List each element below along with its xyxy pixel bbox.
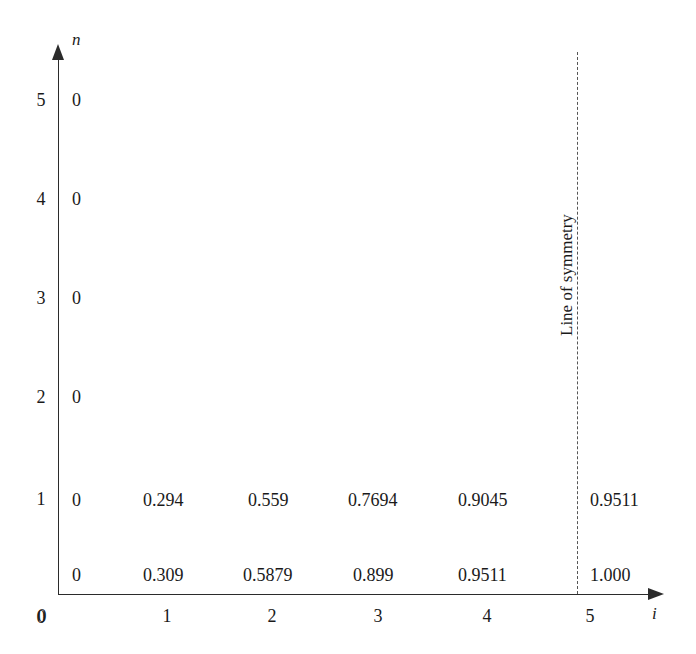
grid-value-c-n0-i1: 0.309 bbox=[143, 565, 184, 586]
y-tick-label-5: 5 bbox=[26, 90, 56, 111]
y-tick-label-4: 4 bbox=[26, 189, 56, 210]
grid-value-c-n5-i0: 0 bbox=[72, 90, 81, 111]
grid-value-c-n1-i2: 0.559 bbox=[248, 490, 289, 511]
x-axis-line bbox=[58, 594, 656, 595]
line-of-symmetry bbox=[577, 52, 578, 594]
x-tick-label-0: 0 bbox=[27, 606, 57, 627]
grid-value-c-n3-i0: 0 bbox=[72, 288, 81, 309]
grid-value-c-n1-i5: 0.9511 bbox=[590, 490, 639, 511]
grid-value-c-n0-i0: 0 bbox=[72, 565, 81, 586]
x-axis-label: i bbox=[652, 604, 657, 624]
y-axis-line bbox=[58, 57, 59, 595]
y-tick-label-2: 2 bbox=[26, 387, 56, 408]
x-tick-label-4: 4 bbox=[472, 606, 502, 627]
grid-value-c-n1-i0: 0 bbox=[72, 490, 81, 511]
grid-value-c-n1-i4: 0.9045 bbox=[458, 490, 508, 511]
y-tick-label-1: 1 bbox=[26, 489, 56, 510]
x-tick-label-2: 2 bbox=[257, 606, 287, 627]
grid-value-c-n0-i4: 0.9511 bbox=[458, 565, 507, 586]
grid-value-c-n1-i1: 0.294 bbox=[143, 490, 184, 511]
grid-value-c-n4-i0: 0 bbox=[72, 189, 81, 210]
x-tick-label-1: 1 bbox=[152, 606, 182, 627]
grid-value-c-n1-i3: 0.7694 bbox=[348, 490, 398, 511]
grid-value-c-n2-i0: 0 bbox=[72, 387, 81, 408]
x-axis-arrow-icon bbox=[648, 588, 664, 600]
symmetry-value-grid-figure: n i Line of symmetry 543210 012345 00000… bbox=[0, 0, 696, 654]
line-of-symmetry-label: Line of symmetry bbox=[557, 214, 577, 350]
x-tick-label-5: 5 bbox=[575, 606, 605, 627]
grid-value-c-n0-i5: 1.000 bbox=[590, 565, 631, 586]
grid-value-c-n0-i3: 0.899 bbox=[353, 565, 394, 586]
y-axis-label: n bbox=[72, 30, 81, 50]
y-tick-label-3: 3 bbox=[26, 288, 56, 309]
x-tick-label-3: 3 bbox=[363, 606, 393, 627]
grid-value-c-n0-i2: 0.5879 bbox=[243, 565, 293, 586]
y-axis-arrow-icon bbox=[52, 44, 64, 60]
